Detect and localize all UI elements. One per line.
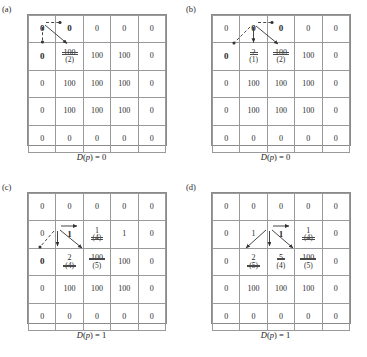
cell-content: 100: [240, 71, 266, 97]
cell-value: 0: [122, 203, 126, 211]
grid-cell-c-5-3: 0: [83, 303, 110, 330]
cell-value: 0: [306, 313, 310, 321]
cell-value: 0: [95, 25, 99, 33]
cell-content: 0: [56, 194, 82, 220]
cell-content: 0: [295, 194, 321, 220]
panel-a-table: 000000100(2)1001000010010010000100100100…: [28, 15, 166, 153]
panel-d-label: (d): [186, 182, 196, 192]
grid-cell-d-4-4: 100: [295, 276, 322, 303]
cell-value: 100: [248, 285, 260, 293]
cell-value: 0: [68, 313, 72, 321]
cell-content: 0: [139, 16, 165, 42]
cell-value: 0: [224, 203, 228, 211]
cell-value: 0: [40, 285, 44, 293]
cell-content: 0: [139, 276, 165, 302]
cell-value: 0: [252, 313, 256, 321]
cell-content: 0: [111, 126, 137, 152]
grid-cell-b-4-3: 100: [267, 98, 294, 125]
cell-value: 0: [150, 52, 154, 60]
cell-content: 1(4): [295, 221, 321, 247]
grid-cell-b-3-4: 100: [295, 70, 322, 97]
cell-value: 0: [224, 313, 228, 321]
cell-content: 0: [29, 16, 55, 42]
grid-cell-b-1-3: 0: [267, 16, 294, 43]
panel-a-caption: D(p) = 0: [0, 152, 183, 162]
panel-b-label: (b): [186, 4, 196, 14]
grid-cell-c-4-5: 0: [138, 276, 165, 303]
grid-cell-d-4-2: 100: [240, 276, 267, 303]
grid-cell-a-3-4: 100: [111, 70, 138, 97]
panel-a: (a) 000000100(2)100100001001001000010010…: [0, 0, 183, 179]
cell-content: 100(5): [84, 249, 110, 275]
cell-value: 0: [306, 203, 310, 211]
panel-c-caption-eq: = 1: [93, 330, 106, 340]
cell-content: 1: [111, 221, 137, 247]
cell-value: 0: [95, 203, 99, 211]
cell-value: 0: [334, 203, 338, 211]
grid-cell-a-1-3: 0: [83, 16, 110, 43]
cell-value: 0: [40, 135, 44, 143]
cell-content: 100: [84, 98, 110, 124]
cell-content: 0: [29, 71, 55, 97]
cell-content: 0: [84, 16, 110, 42]
cell-value: 0: [67, 24, 72, 33]
panel-d: (d) 000000111(4)002(5)5(4)100(5)00100100…: [184, 178, 367, 357]
grid-cell-c-4-2: 100: [56, 276, 83, 303]
cell-content: 0: [268, 194, 294, 220]
cell-content: 100(2): [56, 43, 82, 69]
cell-order-label: (2): [65, 56, 74, 64]
grid-cell-c-3-2: 2(4): [56, 248, 83, 275]
grid-cell-d-1-4: 0: [295, 194, 322, 221]
cell-content: 0: [268, 304, 294, 330]
grid-cell-d-3-5: 0: [322, 248, 349, 275]
cell-value: 100: [302, 52, 314, 60]
cell-value: 0: [279, 203, 283, 211]
cell-order-value: (5): [249, 262, 258, 270]
cell-content: 0: [268, 126, 294, 152]
cell-content: 0: [295, 16, 321, 42]
cell-value: 0: [40, 80, 44, 88]
cell-order-label: (4): [65, 262, 74, 270]
cell-content: 0: [323, 249, 349, 275]
grid-cell-c-1-2: 0: [56, 194, 83, 221]
grid-cell-c-3-5: 0: [138, 248, 165, 275]
cell-content: 2(4): [56, 249, 82, 275]
cell-value: 0: [40, 107, 44, 115]
cell-value: 1: [67, 230, 72, 239]
panel-c-label: (c): [2, 182, 11, 192]
cell-content: 100: [295, 43, 321, 69]
grid-cell-c-2-5: 0: [138, 221, 165, 248]
cell-content: 0: [213, 221, 239, 247]
grid-cell-b-2-3: 100(2): [267, 43, 294, 70]
grid-cell-a-5-2: 0: [56, 125, 83, 152]
grid-cell-b-3-3: 100: [267, 70, 294, 97]
grid-cell-d-1-1: 0: [213, 194, 240, 221]
cell-content: 0: [240, 194, 266, 220]
cell-value: 0: [252, 203, 256, 211]
cell-content: 0: [56, 304, 82, 330]
cell-order-value: (5): [93, 262, 102, 270]
grid-row: 01001001000: [213, 70, 350, 97]
cell-content: 0: [323, 98, 349, 124]
grid-cell-a-2-3: 100: [83, 43, 110, 70]
grid-cell-c-1-4: 0: [111, 194, 138, 221]
grid-cell-b-3-5: 0: [322, 70, 349, 97]
grid-cell-c-2-3: 1(4): [83, 221, 110, 248]
grid-cell-a-2-1: 0: [29, 43, 56, 70]
grid-cell-b-5-2: 0: [240, 125, 267, 152]
cell-value: 100: [248, 107, 260, 115]
cell-order-label: (5): [304, 262, 313, 270]
grid-cell-b-3-1: 0: [213, 70, 240, 97]
cell-order-label: (5): [93, 262, 102, 270]
cell-value: 0: [68, 203, 72, 211]
grid-cell-a-1-2: 0: [56, 16, 83, 43]
cell-value: 0: [334, 52, 338, 60]
grid-row: 00000: [29, 16, 166, 43]
cell-value: 100: [64, 285, 76, 293]
cell-order-label: (4): [93, 234, 102, 242]
grid-cell-b-3-2: 100: [240, 70, 267, 97]
cell-value: 0: [279, 24, 284, 33]
panel-b-grid: 0000002(1)100(2)100001001001000010010010…: [211, 14, 351, 146]
cell-value: 100: [248, 80, 260, 88]
grid-row: 011(4)10: [29, 221, 166, 248]
